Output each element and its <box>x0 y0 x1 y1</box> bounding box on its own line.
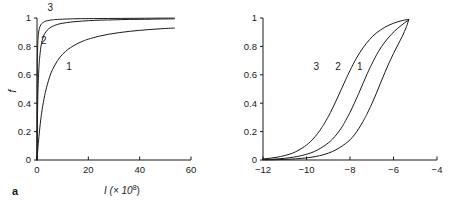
curve-label-1: 1 <box>66 61 72 72</box>
panel-a-x-axis-label: I (× 108) <box>104 186 140 196</box>
panel-a-y-tick-label: 0.2 <box>18 126 31 137</box>
panel-a-letter: a <box>12 186 18 197</box>
panel-b-x-tick-label: −10 <box>298 164 314 175</box>
panel-b-y-tick-label: 1 <box>252 12 257 23</box>
panel-a-x-tick-label: 40 <box>134 164 145 175</box>
panel-a-y-tick-label: 0.8 <box>18 41 31 52</box>
panel-a-x-axis-label-text: I (× 10 <box>104 185 133 196</box>
panel-b-y-tick-label: 0.2 <box>244 126 257 137</box>
curve-label-3: 3 <box>48 2 54 13</box>
panel-a-x-tick-label: 60 <box>186 164 197 175</box>
panel-a: 00.20.40.60.810204060123 f I (× 108) a <box>0 0 226 206</box>
panel-b-y-tick-label: 0.6 <box>244 69 257 80</box>
panel-a-y-tick-label: 1 <box>26 12 31 23</box>
panel-b-y-tick-label: 0.8 <box>244 41 257 52</box>
curve-label-2: 2 <box>41 35 47 46</box>
curve-3 <box>37 18 174 160</box>
panel-b-x-tick-label: −4 <box>432 164 443 175</box>
curve-2 <box>263 20 409 159</box>
figure-container: 00.20.40.60.810204060123 f I (× 108) a 0… <box>0 0 452 206</box>
panel-b-y-tick-label: 0.4 <box>244 98 257 109</box>
curve-label-2: 2 <box>335 61 341 72</box>
curve-label-1: 1 <box>357 61 363 72</box>
panel-a-x-tick-label: 20 <box>83 164 94 175</box>
panel-a-y-tick-label: 0.4 <box>18 98 31 109</box>
panel-a-y-tick-label: 0 <box>26 154 31 165</box>
curve-1 <box>263 19 409 159</box>
curve-3 <box>263 19 409 158</box>
curve-1 <box>37 28 174 160</box>
panel-a-x-tick-label: 0 <box>34 164 39 175</box>
panel-b-plot: 00.20.40.60.81−12−10−8−6−4123 <box>226 0 452 206</box>
panel-a-y-axis-label: f <box>8 84 18 98</box>
panel-b-x-tick-label: −6 <box>388 164 399 175</box>
panel-a-x-axis-label-close: ) <box>137 185 140 196</box>
panel-b: 00.20.40.60.81−12−10−8−6−4123 f log I b <box>226 0 452 206</box>
curve-label-3: 3 <box>314 61 320 72</box>
panel-a-y-tick-label: 0.6 <box>18 69 31 80</box>
panel-b-x-tick-label: −8 <box>345 164 356 175</box>
curve-2 <box>37 19 174 160</box>
panel-b-x-tick-label: −12 <box>255 164 271 175</box>
panel-a-plot: 00.20.40.60.810204060123 <box>0 0 226 206</box>
